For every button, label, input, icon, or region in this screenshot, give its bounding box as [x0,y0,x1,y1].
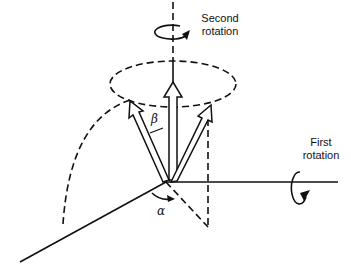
alpha-label: α [157,204,165,218]
second-rotation-arrow-icon [155,25,186,39]
dashed-projection [166,182,208,227]
beta-label: β [151,112,158,126]
rotation-diagram [0,0,351,269]
first-rotation-line2: rotation [296,149,346,162]
ground-line [20,182,166,262]
vector-arrow-left [129,101,169,182]
first-rotation-label: First rotation [296,136,346,162]
beta-arc [150,128,163,133]
first-rotation-line1: First [296,136,346,149]
left-dashed-arc [63,100,130,224]
second-rotation-line2: rotation [192,25,248,38]
second-rotation-label: Second rotation [192,12,248,38]
second-rotation-line1: Second [192,12,248,25]
